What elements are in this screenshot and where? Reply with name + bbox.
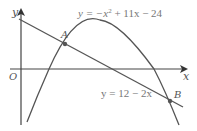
parabola-equation-label: y = −x2 + 11x − 24 (77, 7, 163, 19)
point-a-label: A (60, 29, 68, 40)
parabola-curve (27, 19, 179, 125)
point-b-marker (168, 99, 172, 103)
x-axis-label: x (183, 70, 190, 83)
parabola-eq-suffix: + 11x − 24 (112, 7, 163, 19)
origin-label: O (9, 71, 17, 82)
diagram-canvas: y x O A B y = −x2 + 11x − 24 y = 12 − 2x (0, 0, 197, 131)
line-equation-label: y = 12 − 2x (101, 87, 152, 99)
point-a-marker (63, 42, 67, 46)
parabola-eq-prefix: y = −x (77, 7, 108, 19)
point-b-label: B (173, 89, 181, 100)
y-axis-label: y (11, 6, 19, 19)
